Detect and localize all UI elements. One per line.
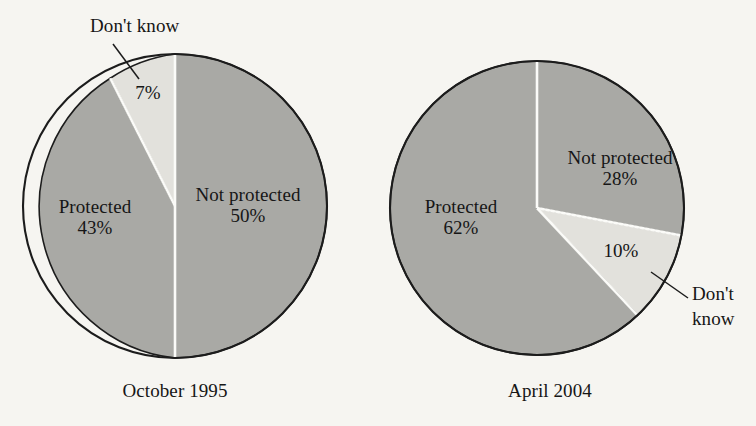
left-label-protected: Protected 43% — [30, 196, 160, 239]
left-label-not-protected-name: Not protected — [195, 184, 300, 205]
right-label-protected-name: Protected — [425, 196, 498, 217]
left-label-not-protected-pct: 50% — [168, 205, 328, 226]
right-label-protected-pct: 62% — [396, 217, 526, 238]
right-label-dont-know-pct: 10% — [590, 240, 652, 261]
left-label-protected-pct: 43% — [30, 217, 160, 238]
right-chart-caption: April 2004 — [475, 380, 625, 401]
left-callout-dont-know: Don't know — [90, 15, 179, 36]
right-callout-dont-know-line1: Don't — [692, 283, 734, 304]
left-label-protected-name: Protected — [59, 196, 132, 217]
right-label-not-protected: Not protected 28% — [540, 147, 700, 190]
left-label-not-protected: Not protected 50% — [168, 184, 328, 227]
left-chart-caption: October 1995 — [100, 380, 250, 401]
left-label-dont-know-pct: 7% — [120, 82, 176, 103]
right-label-not-protected-name: Not protected — [567, 147, 672, 168]
right-label-protected: Protected 62% — [396, 196, 526, 239]
figure-canvas: Not protected 50% Protected 43% 7% Don't… — [0, 0, 756, 426]
right-label-not-protected-pct: 28% — [540, 168, 700, 189]
right-callout-dont-know-line2: know — [692, 308, 735, 329]
